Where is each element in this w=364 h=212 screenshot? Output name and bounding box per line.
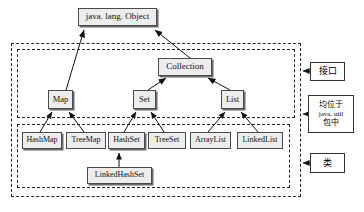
node-linkedhashset[interactable]: LinkedHashSet bbox=[87, 167, 152, 184]
annotation-line: java. util bbox=[319, 110, 344, 118]
class-annotation-box: 类 bbox=[310, 153, 345, 173]
node-label: TreeSet bbox=[155, 136, 180, 144]
node-treemap[interactable]: TreeMap bbox=[66, 132, 106, 149]
node-map[interactable]: Map bbox=[48, 90, 73, 109]
node-list[interactable]: List bbox=[221, 90, 244, 109]
package-annotation-box: 均位于 java. util 包中 bbox=[308, 95, 354, 133]
collections-hierarchy-diagram: java. lang. Object Collection Map Set Li… bbox=[0, 0, 364, 212]
node-hashset[interactable]: HashSet bbox=[108, 132, 145, 149]
node-label: java. lang. Object bbox=[86, 12, 149, 21]
annotation-line: 均位于 bbox=[319, 100, 343, 109]
node-label: TreeMap bbox=[71, 136, 100, 144]
node-label: Collection bbox=[166, 62, 204, 71]
node-label: HashMap bbox=[26, 136, 57, 144]
annotation-line: 类 bbox=[323, 158, 332, 169]
node-collection[interactable]: Collection bbox=[158, 58, 212, 76]
node-java-lang-object[interactable]: java. lang. Object bbox=[78, 8, 157, 26]
node-label: ArrayList bbox=[195, 136, 226, 144]
node-hashmap[interactable]: HashMap bbox=[22, 132, 62, 149]
node-label: List bbox=[226, 95, 239, 104]
node-label: HashSet bbox=[113, 136, 140, 144]
node-arraylist[interactable]: ArrayList bbox=[190, 132, 231, 149]
node-treeset[interactable]: TreeSet bbox=[148, 132, 186, 149]
node-label: Map bbox=[53, 95, 69, 104]
annotation-line: 包中 bbox=[323, 118, 339, 127]
node-label: LinkedList bbox=[242, 136, 277, 144]
node-label: Set bbox=[139, 95, 150, 104]
node-linkedlist[interactable]: LinkedList bbox=[237, 132, 283, 149]
node-set[interactable]: Set bbox=[133, 90, 156, 109]
interface-annotation-box: 接口 bbox=[310, 62, 345, 81]
annotation-line: 接口 bbox=[319, 66, 337, 77]
node-label: LinkedHashSet bbox=[95, 171, 144, 179]
